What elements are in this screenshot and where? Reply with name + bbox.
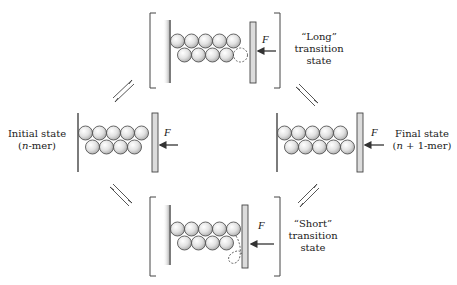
long-ts-line2: transition: [289, 43, 349, 55]
load-plate: [242, 205, 248, 268]
equilibrium-arrow-initial-long: [113, 80, 134, 102]
load-plate: [357, 113, 363, 172]
long-ts-line1: “Long”: [289, 31, 349, 43]
short-ts-label: “Short” transition state: [283, 218, 343, 254]
subunits-top-row: [171, 222, 241, 236]
short-ts-line2: transition: [283, 230, 343, 242]
fixed-wall-shade: [163, 205, 169, 265]
initial-line1: Initial state: [4, 128, 70, 140]
final-line2: (n + 1-mer): [389, 140, 455, 152]
equilibrium-arrow-short-final: [298, 184, 319, 207]
left-bracket: [150, 13, 156, 88]
subunits-bottom-row: [178, 236, 234, 250]
incoming-subunit-dashed: [234, 48, 248, 62]
short-ts-line1: “Short”: [283, 218, 343, 230]
initial-line2: (n-mer): [4, 140, 70, 152]
subunits-bottom-row: [285, 140, 355, 154]
long-ts-line3: state: [289, 55, 349, 67]
subunits-bottom-row: [178, 48, 234, 62]
final-state-panel: [277, 113, 384, 172]
subunits-top-row: [171, 34, 241, 48]
subunits-bottom-row: [86, 140, 142, 154]
force-label-final: F: [371, 126, 378, 138]
initial-suffix: -mer): [28, 140, 55, 151]
force-label-short: F: [258, 219, 265, 231]
short-ts-line3: state: [283, 242, 343, 254]
initial-state-label: Initial state (n-mer): [4, 128, 70, 152]
force-label-initial: F: [164, 126, 171, 138]
final-suffix: + 1-mer): [403, 140, 452, 151]
final-line1: Final state: [389, 128, 455, 140]
short-transition-state-panel: [150, 197, 280, 276]
equilibrium-arrow-long-final: [296, 84, 318, 106]
subunits-top-row: [79, 126, 149, 140]
final-state-label: Final state (n + 1-mer): [389, 128, 455, 152]
fixed-wall-shade: [163, 20, 169, 83]
equilibrium-arrow-initial-short: [110, 184, 132, 206]
load-plate: [152, 113, 158, 172]
subunits-top-row: [278, 126, 348, 140]
long-transition-state-panel: [150, 13, 280, 88]
right-bracket: [274, 197, 280, 276]
left-bracket: [150, 197, 156, 276]
load-plate: [250, 22, 256, 83]
long-ts-label: “Long” transition state: [289, 31, 349, 67]
force-label-long: F: [262, 33, 269, 45]
initial-state-panel: [78, 113, 178, 172]
